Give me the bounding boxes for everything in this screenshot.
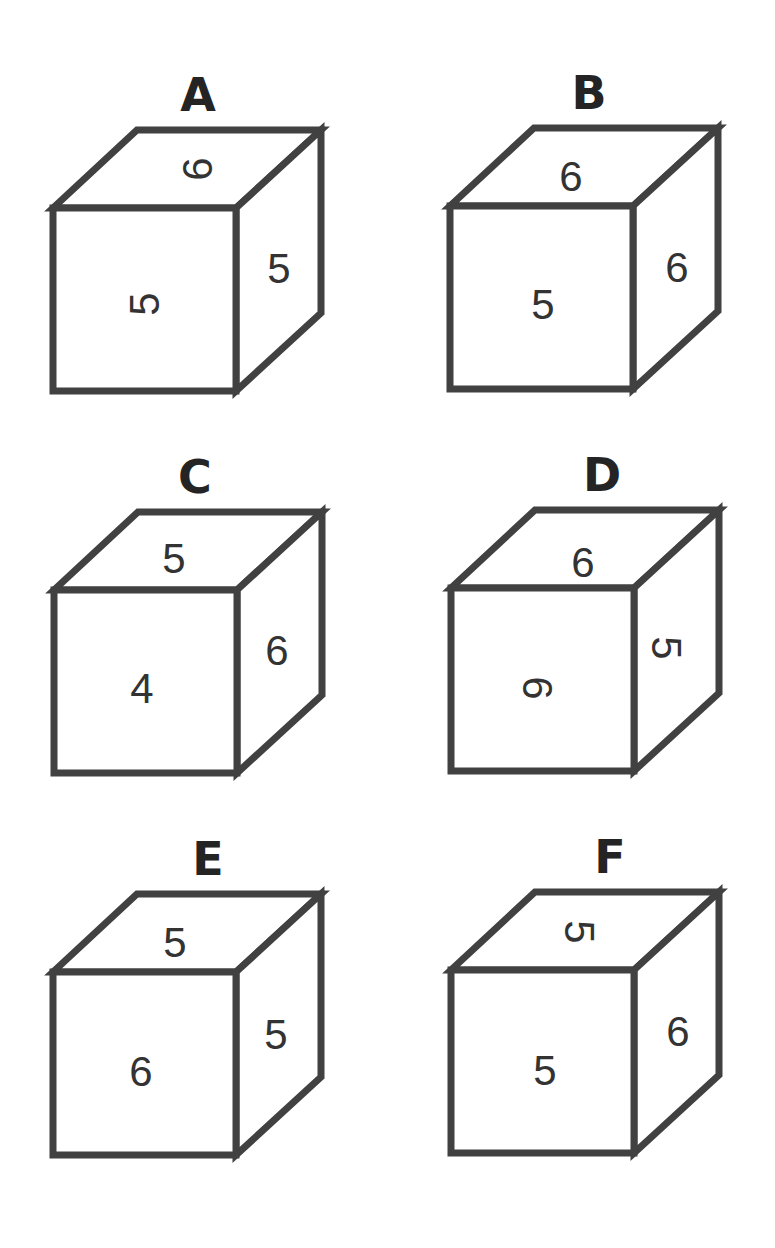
cube-f: F 5 5 6 — [438, 834, 738, 1174]
cube-drawing: 6 6 5 — [438, 452, 738, 792]
front-face-number: 5 — [531, 281, 554, 328]
front-face-number: 4 — [130, 665, 153, 712]
cube-b: B 6 5 6 — [437, 70, 737, 410]
top-face-number: 5 — [162, 535, 185, 582]
top-face-number: 5 — [556, 920, 603, 943]
front-face-number: 6 — [129, 1048, 152, 1095]
top-face-number: 6 — [559, 153, 582, 200]
right-face-number: 6 — [265, 627, 288, 674]
cube-drawing: 6 5 5 — [40, 72, 340, 412]
front-face-number: 5 — [533, 1047, 556, 1094]
right-face-number: 5 — [267, 245, 290, 292]
cube-d: D 6 6 5 — [438, 452, 738, 792]
front-face-number: 6 — [514, 676, 561, 699]
right-face-number: 6 — [665, 244, 688, 291]
right-face-number: 5 — [264, 1011, 287, 1058]
right-face-number: 6 — [666, 1008, 689, 1055]
top-face-number: 6 — [174, 157, 221, 180]
cube-drawing: 6 5 6 — [437, 70, 737, 410]
top-face-number: 5 — [163, 919, 186, 966]
right-face-number: 5 — [643, 636, 690, 659]
cube-drawing: 5 6 5 — [40, 836, 340, 1176]
cube-drawing: 5 5 6 — [438, 834, 738, 1174]
top-face-number: 6 — [571, 539, 594, 586]
front-face-number: 5 — [121, 292, 168, 315]
cube-c: C 5 4 6 — [41, 454, 341, 794]
cube-e: E 5 6 5 — [40, 836, 340, 1176]
cube-drawing: 5 4 6 — [41, 454, 341, 794]
cube-a: A 6 5 5 — [40, 72, 340, 412]
